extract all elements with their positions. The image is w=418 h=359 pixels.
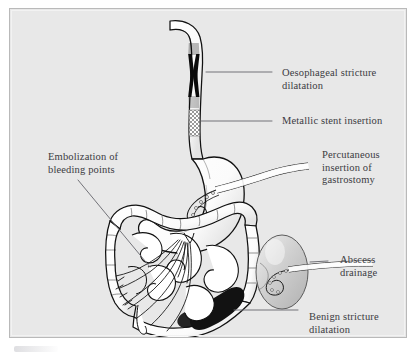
abscess-highlight xyxy=(265,239,285,265)
small-bowel-loop-3 xyxy=(204,245,238,292)
label-abscess-drainage: Abscess drainage xyxy=(340,254,404,279)
label-embolization-of-bleeding-points: Embolization of bleeding points xyxy=(48,151,152,176)
label-oesophageal-stricture-dilatation: Oesophageal stricture dilatation xyxy=(282,67,400,92)
oesophagus-group xyxy=(170,21,203,159)
leader-abscess-drainage xyxy=(310,261,328,262)
label-metallic-stent-insertion: Metallic stent insertion xyxy=(282,115,404,128)
stricture-fade-lower xyxy=(188,96,199,108)
small-bowel-loop-5 xyxy=(185,285,214,320)
figure-frame: Oesophageal stricture dilatation Metalli… xyxy=(9,8,407,338)
figure-root: Oesophageal stricture dilatation Metalli… xyxy=(0,0,418,359)
label-benign-stricture-dilatation: Benign stricture dilatation xyxy=(309,311,405,336)
page-artifact-smudge xyxy=(14,346,58,352)
descending-colon xyxy=(106,221,136,317)
abscess-group xyxy=(256,235,308,309)
label-percutaneous-insertion-of-gastrostomy: Percutaneous insertion of gastrostomy xyxy=(322,149,406,187)
metallic-stent xyxy=(189,110,199,136)
stricture-fade-upper xyxy=(188,43,199,55)
